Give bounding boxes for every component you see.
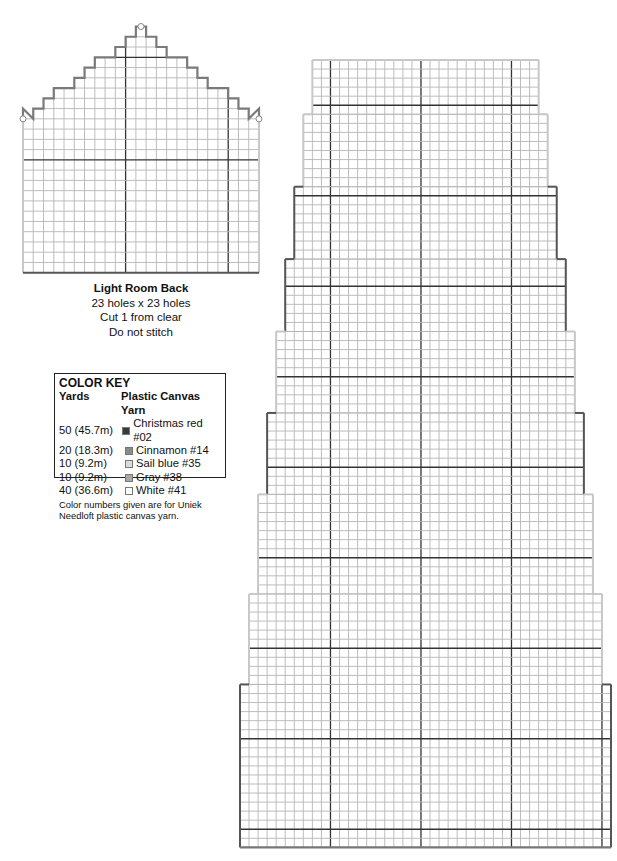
yarn-header: Plastic Canvas Yarn bbox=[121, 390, 221, 417]
yards-value: 10 (9.2m) bbox=[59, 457, 125, 470]
color-key: COLOR KEY Yards Plastic Canvas Yarn 50 (… bbox=[54, 373, 226, 478]
swatch-icon bbox=[125, 474, 133, 482]
piece-size: 23 holes x 23 holes bbox=[40, 296, 242, 311]
yarn-name: Cinnamon #14 bbox=[136, 444, 209, 457]
yards-header: Yards bbox=[59, 390, 121, 417]
piece-stitch: Do not stitch bbox=[40, 325, 242, 340]
color-key-item: 10 (9.2m) Sail blue #35 bbox=[59, 457, 221, 470]
attachment-point-icon bbox=[138, 24, 144, 30]
color-key-heading: COLOR KEY bbox=[59, 377, 221, 390]
color-key-item: 10 (9.2m) Gray #38 bbox=[59, 471, 221, 484]
yards-value: 50 (45.7m) bbox=[59, 424, 122, 437]
swatch-icon bbox=[122, 427, 130, 435]
yards-value: 10 (9.2m) bbox=[59, 471, 125, 484]
swatch-icon bbox=[125, 447, 133, 455]
light-room-back-grid bbox=[23, 27, 259, 273]
light-room-back-caption: Light Room Back 23 holes x 23 holes Cut … bbox=[40, 281, 242, 339]
yards-value: 20 (18.3m) bbox=[59, 444, 125, 457]
piece-cut: Cut 1 from clear bbox=[40, 310, 242, 325]
roof-outline bbox=[23, 27, 259, 119]
yarn-name: Sail blue #35 bbox=[136, 457, 201, 470]
color-key-item: 40 (36.6m) White #41 bbox=[59, 484, 221, 497]
yarn-name: Gray #38 bbox=[136, 471, 182, 484]
attachment-point-icon bbox=[20, 116, 26, 122]
piece-title: Light Room Back bbox=[40, 281, 242, 296]
yarn-name: Christmas red #02 bbox=[133, 417, 221, 444]
swatch-icon bbox=[125, 460, 133, 468]
yarn-name: White #41 bbox=[136, 484, 186, 497]
color-key-columns: Yards Plastic Canvas Yarn bbox=[59, 390, 221, 417]
swatch-icon bbox=[125, 487, 133, 495]
attachment-point-icon bbox=[256, 116, 262, 122]
color-key-item: 20 (18.3m) Cinnamon #14 bbox=[59, 444, 221, 457]
color-key-note: Color numbers given are for Uniek Needlo… bbox=[59, 499, 221, 522]
yards-value: 40 (36.6m) bbox=[59, 484, 125, 497]
color-key-item: 50 (45.7m) Christmas red #02 bbox=[59, 417, 221, 444]
